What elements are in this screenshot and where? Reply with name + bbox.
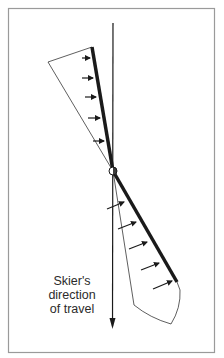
- direction-label-line2: direction: [48, 288, 95, 302]
- direction-label-line1: Skier's: [53, 274, 90, 288]
- figure-frame: [9, 9, 215, 353]
- ski-pivot-diagram: Skier's direction of travel: [0, 0, 224, 358]
- direction-label-line3: of travel: [50, 302, 94, 316]
